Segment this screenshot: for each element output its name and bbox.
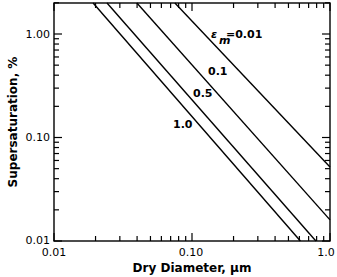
x-axis-title: Dry Diameter, μm — [133, 261, 252, 275]
svg-text:ε: ε — [211, 28, 217, 41]
y-tick-label-1: 1.00 — [26, 28, 51, 41]
x-tick-label-0.10: 0.10 — [179, 246, 204, 259]
curve-label-0.5: 0.5 — [193, 87, 213, 100]
chart: 1.00 0.10 0.01 0.01 0.10 1.0 Dry Diamete… — [0, 0, 337, 277]
x-tick-label-0.01: 0.01 — [42, 246, 67, 259]
curve-label-1.0: 1.0 — [173, 118, 193, 131]
curve-label-0.01: ε m =0.01 — [211, 28, 262, 47]
y-tick-label-0.1: 0.10 — [26, 131, 51, 144]
svg-text:=0.01: =0.01 — [226, 28, 262, 41]
y-axis-title: Supersaturation, % — [6, 57, 20, 188]
curve-1.0 — [93, 3, 300, 241]
x-tick-label-1.0: 1.0 — [317, 246, 335, 259]
curve-label-0.1: 0.1 — [208, 65, 228, 78]
